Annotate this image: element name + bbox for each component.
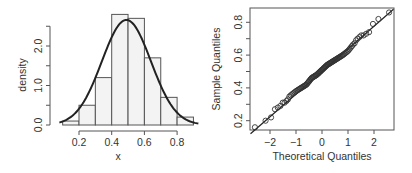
x-tick-label: 0.8 [170, 136, 185, 148]
qq-point [252, 125, 257, 130]
y-tick-label: 0.6 [232, 48, 244, 63]
histogram-bar [128, 18, 144, 125]
y-tick-label: 0.2 [232, 113, 244, 128]
histogram-bar [95, 78, 111, 125]
x-tick-label: −1 [290, 136, 302, 148]
histogram-bar [79, 105, 95, 125]
x-axis-title: x [115, 150, 121, 162]
x-axis: −2−1012 [264, 130, 377, 148]
figure: 0.01.02.0 0.20.40.60.8 x density 0.20.40… [0, 0, 412, 173]
y-tick-label: 0.4 [232, 80, 244, 95]
x-tick-label: 0.2 [72, 136, 87, 148]
x-tick-label: 0.4 [104, 136, 119, 148]
y-axis-title: density [16, 58, 28, 92]
x-tick-label: 0.6 [137, 136, 152, 148]
x-tick-label: 1 [345, 136, 351, 148]
y-tick-label: 1.0 [32, 78, 44, 93]
x-axis-title: Theoretical Quantiles [272, 150, 371, 162]
qq-points [252, 10, 391, 130]
y-axis: 0.20.40.60.8 [232, 15, 250, 128]
x-tick-label: −2 [264, 136, 276, 148]
x-tick-label: 2 [371, 136, 377, 148]
y-tick-label: 0.8 [232, 15, 244, 30]
y-axis-title: Sample Quantiles [210, 28, 222, 111]
y-tick-label: 0.0 [32, 118, 44, 133]
qq-point [370, 21, 375, 26]
histogram-bar [63, 121, 79, 125]
y-axis: 0.01.02.0 [32, 26, 50, 132]
x-tick-label: 0 [319, 136, 325, 148]
qq-plot-panel: 0.20.40.60.8 −2−1012 Theoretical Quantil… [210, 8, 394, 162]
x-axis: 0.20.40.60.8 [72, 131, 185, 148]
y-tick-label: 2.0 [32, 39, 44, 54]
qq-point [376, 16, 381, 21]
histogram-panel: 0.01.02.0 0.20.40.60.8 x density [16, 14, 198, 162]
